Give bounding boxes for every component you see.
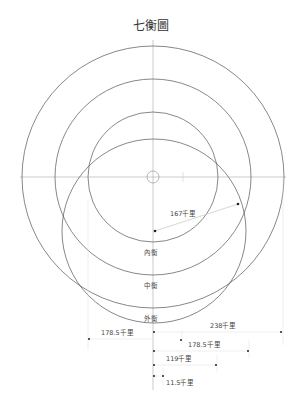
middle-label: 中衡	[144, 281, 158, 290]
outer-label: 外衡	[144, 314, 158, 323]
radius-label: 167千里	[170, 209, 196, 218]
radius-line	[155, 204, 238, 231]
dimension-label-11-5: 11.5千里	[166, 378, 194, 387]
dimension-label-178-left: 178.5千里	[101, 328, 134, 337]
inner-label: 內衡	[144, 248, 158, 257]
seven-heng-diagram: 167千里 內衡 中衡 外衡 238千里 178.5千里 178.5千里 119…	[0, 0, 302, 411]
dimension-label-178-right: 178.5千里	[188, 340, 221, 349]
dimension-label-238: 238千里	[210, 321, 236, 330]
dimension-label-119: 119千里	[166, 354, 192, 363]
